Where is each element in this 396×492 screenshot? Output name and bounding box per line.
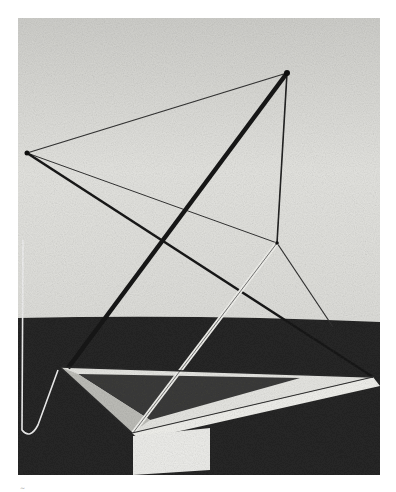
wall-background bbox=[18, 18, 380, 323]
joint-top bbox=[284, 70, 290, 76]
sculpture-photograph bbox=[18, 18, 380, 475]
joint-middle bbox=[275, 241, 279, 245]
footer-mark: ~ bbox=[20, 484, 25, 491]
joint-left bbox=[25, 151, 30, 156]
photo-canvas bbox=[18, 18, 380, 475]
pedestal bbox=[133, 428, 210, 475]
